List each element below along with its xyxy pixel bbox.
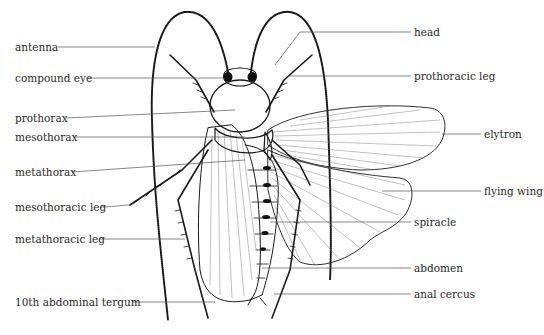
label-elytron: elytron [484,128,522,140]
flying-wing-drawing [268,150,412,265]
label-prothoracic-leg: prothoracic leg [414,70,495,82]
label-spiracle: spiracle [414,216,456,228]
label-head: head [414,26,440,38]
legs [130,55,312,318]
label-mesothorax: mesothorax [15,131,77,143]
cockroach-illustration [0,0,544,335]
label-10th-abdominal-tergum: 10th abdominal tergum [15,296,141,308]
prothorax-shield [210,80,270,132]
label-mesothoracic-leg: mesothoracic leg [15,201,106,213]
left-compound-eye [224,72,233,82]
cockroach-anatomy-diagram: antenna compound eye prothorax mesothora… [0,0,544,335]
antennae [152,12,331,320]
label-metathorax: metathorax [15,166,76,178]
abdomen-segments [245,145,278,300]
label-flying-wing: flying wing [484,185,543,197]
label-compound-eye: compound eye [15,72,92,84]
label-antenna: antenna [15,41,58,53]
label-abdomen: abdomen [414,262,463,274]
right-compound-eye [248,72,257,82]
label-anal-cercus: anal cercus [414,288,475,300]
label-prothorax: prothorax [15,112,68,124]
label-metathoracic-leg: metathoracic leg [15,233,105,245]
